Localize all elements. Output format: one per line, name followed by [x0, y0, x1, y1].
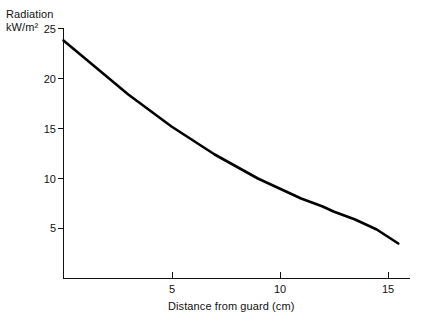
- y-axis-ticks: [58, 29, 63, 229]
- x-axis-ticks: [173, 272, 389, 278]
- plot-area: [0, 0, 424, 324]
- radiation-curve: [64, 41, 399, 244]
- chart-figure: Radiation kW/m² 25 20 15 10 5 5 10 15 Di…: [0, 0, 424, 324]
